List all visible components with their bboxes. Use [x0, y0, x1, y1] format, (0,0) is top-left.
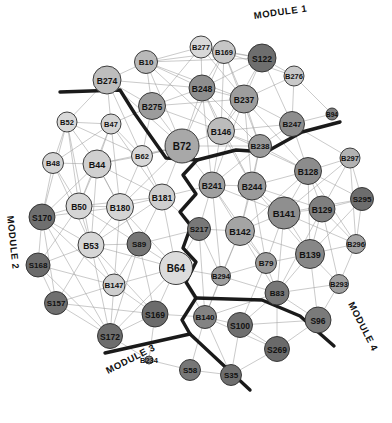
node-label: B139 — [299, 250, 321, 260]
graph-node-s217[interactable]: S217 — [188, 218, 211, 241]
graph-node-b141[interactable]: B141 — [268, 197, 300, 229]
node-label: B146 — [211, 127, 232, 137]
node-label: B277 — [192, 43, 210, 52]
node-label: B237 — [234, 95, 255, 105]
graph-node-b238[interactable]: B238 — [249, 135, 272, 158]
node-label: S122 — [252, 54, 272, 64]
graph-node-s89[interactable]: S89 — [127, 232, 151, 256]
node-label: B244 — [242, 182, 263, 192]
node-label: B141 — [273, 208, 296, 219]
graph-edge — [67, 122, 91, 245]
graph-node-b44[interactable]: B44 — [83, 150, 111, 178]
graph-node-b297[interactable]: B297 — [340, 148, 360, 168]
graph-node-s96[interactable]: S96 — [305, 307, 331, 333]
node-label: B140 — [195, 313, 215, 322]
graph-node-b94[interactable]: B94 — [326, 108, 338, 120]
node-label: B247 — [282, 120, 302, 129]
graph-node-b275[interactable]: B275 — [139, 93, 166, 120]
graph-node-b180[interactable]: B180 — [107, 194, 134, 221]
graph-node-s172[interactable]: S172 — [98, 324, 123, 349]
node-label: B53 — [83, 241, 99, 251]
graph-node-b62[interactable]: B62 — [132, 146, 153, 167]
graph-node-b128[interactable]: B128 — [295, 158, 322, 185]
node-label: S168 — [29, 261, 48, 270]
graph-node-b83[interactable]: B83 — [265, 281, 289, 305]
graph-edge — [42, 217, 114, 285]
network-diagram-figure: B277B10B169S122B274B276B275B248B237B247B… — [0, 0, 392, 423]
graph-node-b146[interactable]: B146 — [208, 118, 235, 145]
graph-node-s169[interactable]: S169 — [142, 301, 168, 327]
node-label: B294 — [212, 272, 231, 281]
graph-node-b276[interactable]: B276 — [284, 66, 304, 86]
graph-node-b181[interactable]: B181 — [149, 184, 175, 210]
graph-node-b142[interactable]: B142 — [226, 217, 255, 246]
graph-node-s122[interactable]: S122 — [248, 44, 276, 72]
node-label: B181 — [152, 193, 173, 203]
graph-node-b47[interactable]: B47 — [101, 114, 121, 134]
graph-node-b53[interactable]: B53 — [78, 232, 104, 258]
graph-node-b72[interactable]: B72 — [165, 129, 199, 163]
node-label: B274 — [97, 76, 118, 86]
node-label: B62 — [135, 152, 149, 161]
graph-node-b248[interactable]: B248 — [189, 75, 215, 101]
node-label: B83 — [270, 289, 285, 298]
node-label: B248 — [192, 84, 213, 94]
graph-node-b140[interactable]: B140 — [194, 306, 217, 329]
graph-node-b139[interactable]: B139 — [296, 240, 325, 269]
node-label: S172 — [100, 332, 120, 342]
node-label: S100 — [230, 321, 250, 331]
graph-node-b64[interactable]: B64 — [160, 252, 193, 285]
graph-node-s269[interactable]: S269 — [265, 337, 290, 362]
node-label: B147 — [104, 281, 124, 290]
graph-node-s170[interactable]: S170 — [29, 204, 55, 230]
node-label: S96 — [310, 316, 325, 326]
graph-node-s157[interactable]: S157 — [45, 292, 68, 315]
graph-node-b241[interactable]: B241 — [199, 172, 225, 198]
node-label: B169 — [215, 48, 233, 57]
network-graph-canvas: B277B10B169S122B274B276B275B248B237B247B… — [0, 0, 392, 423]
node-label: B180 — [110, 203, 131, 213]
node-label: S295 — [353, 195, 372, 204]
graph-node-b296[interactable]: B296 — [347, 235, 366, 254]
node-label: S157 — [47, 299, 66, 308]
graph-node-b237[interactable]: B237 — [230, 85, 258, 113]
graph-node-b48[interactable]: B48 — [43, 153, 64, 174]
node-label: B297 — [341, 154, 359, 163]
graph-node-b293[interactable]: B293 — [330, 275, 349, 294]
node-label: S58 — [183, 366, 198, 375]
node-label: B129 — [312, 205, 333, 215]
node-label: B276 — [285, 72, 303, 81]
node-label: B72 — [173, 141, 192, 152]
graph-node-b79[interactable]: B79 — [256, 253, 277, 274]
node-label: S269 — [267, 345, 287, 355]
node-label: B64 — [167, 263, 186, 274]
node-label: B128 — [298, 167, 319, 177]
node-label: B293 — [330, 280, 348, 289]
graph-node-b244[interactable]: B244 — [238, 172, 266, 200]
node-label: B50 — [71, 202, 87, 212]
graph-node-b294[interactable]: B294 — [212, 267, 231, 286]
graph-node-b147[interactable]: B147 — [103, 274, 125, 296]
graph-node-b247[interactable]: B247 — [280, 112, 305, 137]
graph-node-b129[interactable]: B129 — [309, 196, 335, 222]
graph-node-s100[interactable]: S100 — [228, 313, 253, 338]
node-label: S170 — [32, 213, 52, 223]
node-label: B10 — [139, 58, 154, 67]
graph-node-b277[interactable]: B277 — [190, 36, 212, 58]
node-label: B47 — [104, 120, 118, 129]
graph-node-b10[interactable]: B10 — [135, 51, 158, 74]
node-label: B52 — [60, 118, 74, 127]
graph-node-s58[interactable]: S58 — [180, 360, 201, 381]
node-label: B296 — [347, 240, 365, 249]
graph-node-s35[interactable]: S35 — [221, 365, 242, 386]
graph-node-s168[interactable]: S168 — [26, 253, 50, 277]
graph-node-b274[interactable]: B274 — [93, 66, 121, 94]
node-label: B44 — [89, 160, 106, 170]
graph-edge — [212, 185, 221, 276]
node-label: B79 — [259, 259, 274, 268]
graph-node-s295[interactable]: S295 — [351, 188, 374, 211]
graph-node-b169[interactable]: B169 — [213, 41, 236, 64]
node-label: B142 — [229, 227, 251, 237]
graph-node-b50[interactable]: B50 — [66, 193, 92, 219]
graph-node-b52[interactable]: B52 — [57, 112, 77, 132]
